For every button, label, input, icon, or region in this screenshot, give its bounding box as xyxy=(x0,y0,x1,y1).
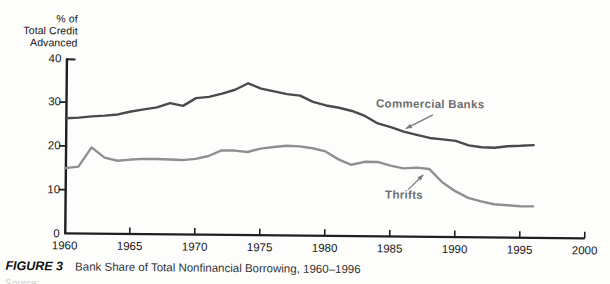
figure-title: Bank Share of Total Nonfinancial Borrowi… xyxy=(75,260,361,275)
figure-number: FIGURE 3 xyxy=(5,259,63,274)
figure-3-panel: % of Total Credit Advanced 0102030401960… xyxy=(0,0,610,284)
line-chart xyxy=(0,0,610,266)
figure-caption: FIGURE 3Bank Share of Total Nonfinancial… xyxy=(5,256,360,277)
commercial-banks-label: Commercial Banks xyxy=(376,97,484,110)
commercial-banks-line xyxy=(66,82,535,149)
thrifts-line xyxy=(65,144,534,207)
cropped-source-line: Source: xyxy=(5,278,305,284)
thrifts-label: Thrifts xyxy=(385,188,423,200)
scanned-page-tilt: % of Total Credit Advanced 0102030401960… xyxy=(0,0,610,284)
